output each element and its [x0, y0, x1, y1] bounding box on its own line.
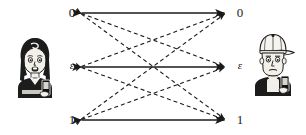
output-node-label-0: 0: [232, 6, 248, 19]
output-node-label-1: 1: [232, 113, 248, 126]
output-node-label-epsilon: ε: [232, 60, 248, 71]
edge-layer: [81, 13, 225, 120]
input-node-label-epsilon: ε: [64, 60, 80, 71]
input-node-label-0: 0: [64, 6, 80, 19]
sender-avatar: [12, 36, 58, 98]
channel-diagram-figure: 0 ε 1 0 ε 1: [0, 0, 306, 135]
input-node-label-1: 1: [64, 113, 80, 126]
receiver-avatar: [250, 32, 296, 96]
sender-avatar-art: [12, 36, 58, 98]
receiver-avatar-art: [250, 32, 296, 96]
